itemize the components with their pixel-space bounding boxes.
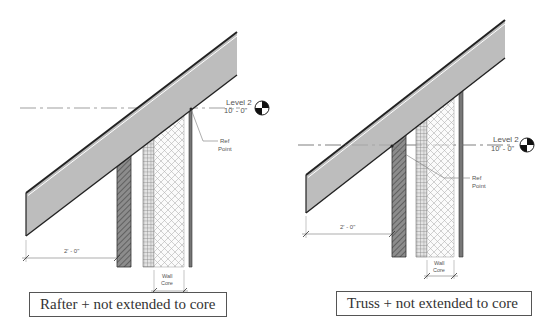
- overhang-dimension-text: 2' - 0": [64, 248, 79, 254]
- truss-diagram: Ref Point Level 2 10' - 0" 2' - 0" Wall …: [298, 20, 534, 279]
- truss-caption: Truss + not extended to core: [336, 291, 532, 316]
- ref-point-label-2: Point: [218, 146, 232, 152]
- drawing-canvas: Ref Point Level 2 10' - 0" 2' - 0" Wall …: [0, 0, 547, 334]
- level-name: Level 2: [493, 135, 519, 144]
- ref-point-label-1: Ref: [472, 175, 482, 181]
- rafter-caption: Rafter + not extended to core: [29, 292, 227, 317]
- sheathing-grid-layer: [416, 119, 427, 257]
- sheathing-grid-layer: [143, 138, 154, 267]
- wall-core-dimension: Wall Core: [424, 260, 458, 279]
- interior-finish-layer: [459, 91, 463, 257]
- overhang-dimension: 2' - 0": [22, 240, 121, 262]
- level-elevation: 10' - 0": [224, 106, 248, 115]
- roof-rafter: [26, 32, 237, 236]
- wall-core-insulation: [427, 98, 454, 257]
- wall-core-label-2: Core: [161, 280, 173, 286]
- wall-core-label-2: Core: [433, 267, 445, 273]
- level-elevation: 10' - 0": [491, 144, 515, 153]
- overhang-dimension: 2' - 0": [302, 216, 396, 238]
- ref-point-label-1: Ref: [220, 138, 230, 144]
- ref-point-label-2: Point: [472, 183, 486, 189]
- rafter-diagram: Ref Point Level 2 10' - 0" 2' - 0" Wall …: [20, 32, 269, 294]
- exterior-finish-layer: [117, 156, 131, 267]
- wall-core-dimension: Wall Core: [151, 270, 188, 294]
- wall-core-label-1: Wall: [434, 260, 445, 266]
- wall-core-insulation: [154, 116, 184, 267]
- level-marker-icon: [255, 101, 269, 115]
- ref-point-leader: [191, 109, 218, 141]
- level-marker-icon: [520, 138, 534, 152]
- wall-core-label-1: Wall: [162, 273, 173, 279]
- rafter-caption-text: Rafter + not extended to core: [40, 296, 215, 313]
- truss-caption-text: Truss + not extended to core: [347, 295, 518, 312]
- interior-finish-layer: [189, 110, 192, 267]
- overhang-dimension-text: 2' - 0": [340, 224, 355, 230]
